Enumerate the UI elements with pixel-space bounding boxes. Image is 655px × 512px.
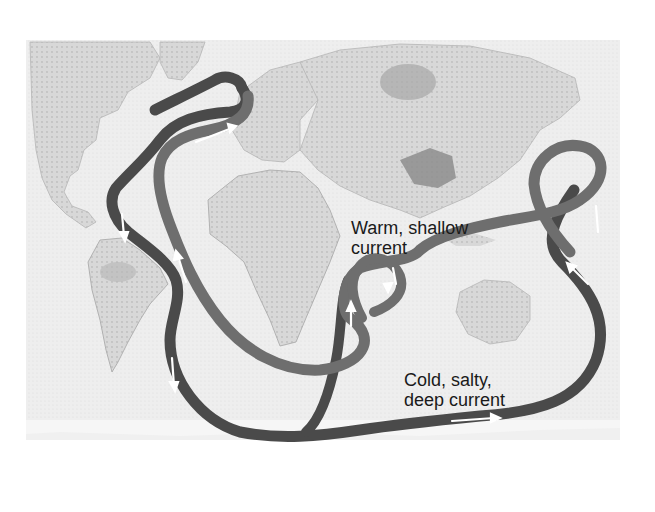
world-map xyxy=(0,0,655,512)
ocean-conveyor-diagram: Warm, shallow current Cold, salty, deep … xyxy=(0,0,655,512)
warm-label-line1: Warm, shallow xyxy=(351,218,468,238)
cold-label-line2: deep current xyxy=(404,390,505,410)
cold-current-label: Cold, salty, deep current xyxy=(404,370,505,410)
cold-label-line1: Cold, salty, xyxy=(404,370,505,390)
siberia-shade xyxy=(380,64,436,100)
warm-label-line2: current xyxy=(351,238,468,258)
warm-current-label: Warm, shallow current xyxy=(351,218,468,258)
